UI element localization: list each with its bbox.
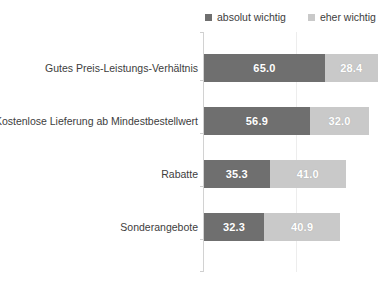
bar-segment-eher-wichtig[interactable]: 40.9 [264,213,340,241]
legend-entry-eher-wichtig[interactable]: eher wichtig [308,12,376,23]
legend-label-eher-wichtig: eher wichtig [320,12,376,23]
bar-value-label: 28.4 [340,62,362,74]
bar-segment-absolut-wichtig[interactable]: 32.3 [204,213,264,241]
plot-area: 65.028.456.932.035.341.032.340.9 [203,32,389,272]
category-label: Rabatte [161,160,198,188]
legend-swatch-absolut-wichtig [205,14,212,21]
category-label: Gutes Preis-Leistungs-Verhältnis [45,54,198,82]
stacked-bar-chart: absolut wichtig eher wichtig 65.028.456.… [0,0,389,281]
category-label: Sonderangebote [120,213,198,241]
axis-tick [200,32,203,33]
axis-tick [200,133,203,134]
axis-tick [200,271,203,272]
bar-row: 32.340.9 [204,213,340,241]
bar-segment-eher-wichtig[interactable]: 41.0 [270,160,346,188]
axis-tick [200,80,203,81]
bar-row: 35.341.0 [204,160,346,188]
legend-swatch-eher-wichtig [308,14,315,21]
bar-row: 65.028.4 [204,54,378,82]
bar-value-label: 35.3 [226,168,248,180]
legend-label-absolut-wichtig: absolut wichtig [217,12,286,23]
bar-value-label: 56.9 [246,115,268,127]
category-label: Kostenlose Lieferung ab Mindestbestellwe… [0,107,198,135]
bar-value-label: 32.0 [328,115,350,127]
bar-value-label: 40.9 [291,221,313,233]
bar-segment-absolut-wichtig[interactable]: 65.0 [204,54,325,82]
bar-value-label: 65.0 [253,62,275,74]
bar-segment-eher-wichtig[interactable]: 28.4 [325,54,378,82]
axis-tick [200,239,203,240]
chart-legend: absolut wichtig eher wichtig [205,10,376,24]
axis-tick [200,186,203,187]
bar-value-label: 32.3 [223,221,245,233]
bar-row: 56.932.0 [204,107,369,135]
bar-segment-absolut-wichtig[interactable]: 56.9 [204,107,310,135]
bar-segment-eher-wichtig[interactable]: 32.0 [310,107,370,135]
bar-segment-absolut-wichtig[interactable]: 35.3 [204,160,270,188]
legend-entry-absolut-wichtig[interactable]: absolut wichtig [205,12,286,23]
bar-value-label: 41.0 [297,168,319,180]
